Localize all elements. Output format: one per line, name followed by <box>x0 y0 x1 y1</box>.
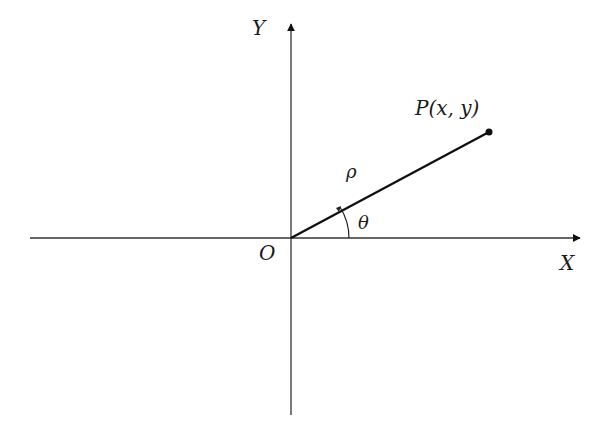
angle-label: θ <box>358 212 369 233</box>
point-label: P(x, y) <box>414 96 479 120</box>
radius-line <box>291 132 489 238</box>
point-p <box>486 129 493 136</box>
origin-label: O <box>259 241 275 265</box>
radius-label: ρ <box>345 161 357 182</box>
x-axis-label: X <box>558 251 575 275</box>
polar-coordinate-diagram: Y X O P(x, y) ρ θ <box>0 0 605 427</box>
y-axis-label: Y <box>252 16 267 40</box>
